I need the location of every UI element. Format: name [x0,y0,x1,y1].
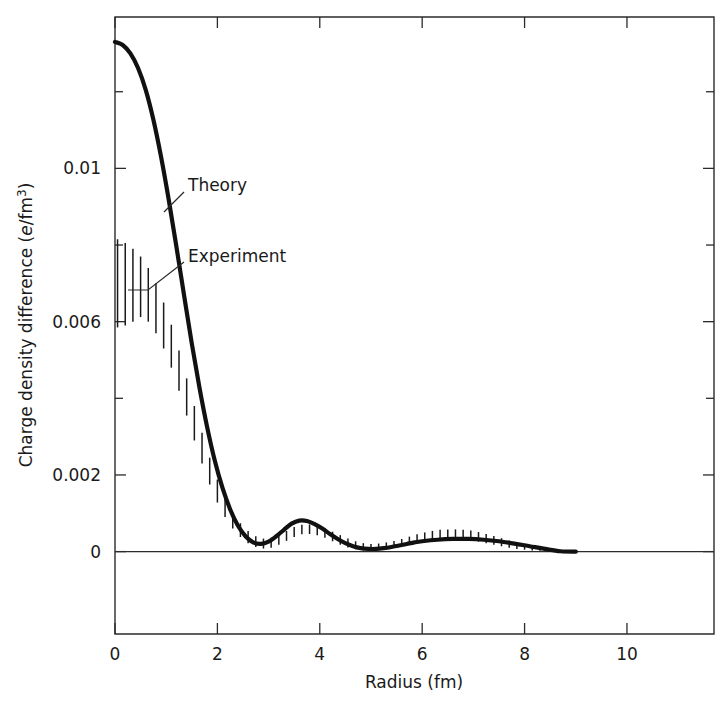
x-tick-label: 4 [314,644,325,664]
y-axis-title-mid: /fm [16,197,36,225]
chart-figure: 00.0020.0060.01 0246810 Radius (fm) Char… [0,0,723,708]
svg-text:Charge density difference (e/f: Charge density difference (e/fm3) [15,183,36,468]
chart-svg: 00.0020.0060.01 0246810 Radius (fm) Char… [0,0,723,708]
y-axis-title-prefix: Charge density difference ( [16,236,36,468]
figure-background [0,0,723,708]
x-tick-label: 10 [616,644,638,664]
x-tick-label: 6 [417,644,428,664]
y-tick-label: 0.006 [52,312,101,332]
x-tick-label: 2 [212,644,223,664]
y-tick-label: 0 [90,542,101,562]
y-axis-title-suffix: ) [16,183,36,190]
y-axis-title: Charge density difference (e/fm3) [15,183,36,468]
y-tick-label: 0.002 [52,465,101,485]
y-tick-label: 0.01 [63,158,101,178]
theory-annotation-label: Theory [187,175,247,195]
y-axis-title-exponent: 3 [15,189,29,197]
y-axis-title-italic-e: e [16,225,36,235]
x-axis-title: Radius (fm) [365,672,463,692]
x-tick-label: 0 [110,644,121,664]
x-tick-label: 8 [519,644,530,664]
experiment-annotation-label: Experiment [188,246,287,266]
